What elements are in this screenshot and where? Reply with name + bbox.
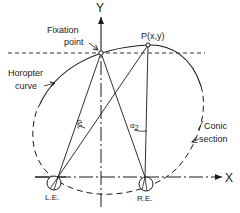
fixation-label-line1: Fixation [47,25,79,35]
x-axis-label: X [225,171,233,185]
diagram-svg: Y X Fixation point P(x,y) Horopter curve… [0,0,240,213]
fixation-label-line2: point [64,37,84,47]
horopter-leader-arrow [44,83,55,86]
conic-label-line1: Conic [204,121,228,131]
horopter-curve [40,45,201,104]
fixation-point-marker [99,51,103,55]
point-p-label: P(x,y) [141,31,165,41]
horopter-label-line2: curve [15,81,37,91]
left-eye-label: L.E. [45,193,59,202]
point-p-marker [146,43,150,47]
conic-label-line2: section [199,134,228,144]
conic-leader-tick [198,121,203,130]
fixation-leader-arrow [89,43,98,50]
le-to-p-line [58,45,148,177]
alpha2-label: α2 [130,121,139,131]
left-eye [47,176,61,190]
re-to-p-line [145,45,148,177]
right-eye-label: R.E. [137,194,153,203]
le-to-fixation-line [58,53,101,177]
horopter-label-line1: Horopter [8,68,43,78]
y-axis-label: Y [96,1,104,15]
horopter-diagram: Y X Fixation point P(x,y) Horopter curve… [0,0,240,213]
re-to-fixation-line [101,53,145,177]
right-eye [139,177,153,191]
